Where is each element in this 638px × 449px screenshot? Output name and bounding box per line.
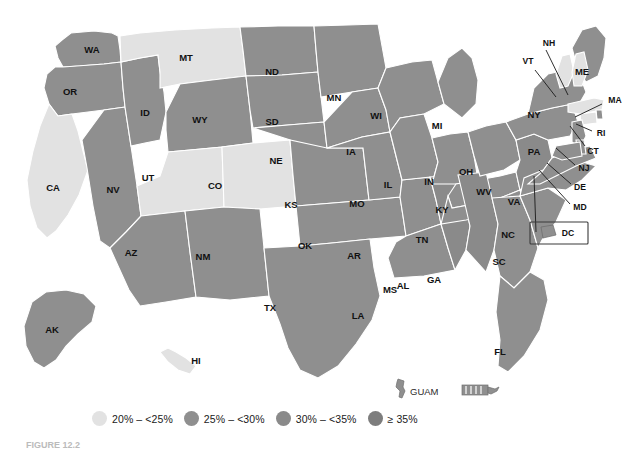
- state-label-ar: AR: [347, 250, 361, 261]
- state-label-nj: NJ: [579, 163, 590, 173]
- figure-number: FIGURE 12.2: [26, 440, 80, 449]
- state-label-ny: NY: [527, 109, 541, 120]
- state-label-sc: SC: [492, 256, 505, 267]
- state-label-ks: KS: [284, 199, 297, 210]
- state-label-wi: WI: [370, 110, 382, 121]
- legend-label-3: 30% – <35%: [296, 413, 357, 425]
- legend-item: ≥ 35%: [368, 411, 418, 426]
- state-label-md: MD: [573, 202, 586, 212]
- state-nd: [240, 26, 318, 76]
- state-label-al: AL: [397, 280, 410, 291]
- state-or: [44, 62, 125, 116]
- legend-label-4: ≥ 35%: [388, 413, 418, 425]
- state-label-co: CO: [208, 180, 222, 191]
- legend-swatch-3: [276, 411, 291, 426]
- state-label-la: LA: [352, 310, 365, 321]
- map-legend: 20% – <25%25% – <30%30% – <35%≥ 35%: [92, 411, 429, 426]
- state-label-nv: NV: [106, 184, 120, 195]
- state-label-ma: MA: [608, 95, 621, 105]
- state-label-az: AZ: [125, 247, 138, 258]
- state-label-ut: UT: [142, 172, 155, 183]
- state-label-wa: WA: [84, 44, 99, 55]
- legend-item: 30% – <35%: [276, 411, 357, 426]
- legend-label-1: 20% – <25%: [112, 413, 173, 425]
- state-label-ga: GA: [427, 274, 441, 285]
- state-label-ct: CT: [587, 146, 599, 156]
- legend-label-2: 25% – <30%: [204, 413, 265, 425]
- legend-swatch-1: [92, 411, 107, 426]
- state-label-nd: ND: [265, 66, 279, 77]
- state-label-mn: MN: [327, 92, 342, 103]
- state-label-mi: MI: [432, 120, 443, 131]
- state-label-il: IL: [384, 179, 393, 190]
- state-label-me: ME: [575, 66, 589, 77]
- state-ks: [290, 140, 369, 206]
- state-label-hi: HI: [191, 355, 201, 366]
- state-mi: [438, 48, 478, 118]
- legend-swatch-2: [184, 411, 199, 426]
- state-label-in: IN: [424, 176, 434, 187]
- state-label-ca: CA: [46, 182, 60, 193]
- state-label-pa: PA: [528, 146, 541, 157]
- state-tx: [264, 239, 380, 378]
- figure-map-container: WAORCANVIDMTWYUTCOAZNMNDSDNEKSOKTXMNIAMO…: [0, 0, 638, 449]
- state-label-nc: NC: [501, 229, 515, 240]
- legend-swatch-4: [368, 411, 383, 426]
- state-label-tn: TN: [416, 234, 429, 245]
- state-label-ms: MS: [383, 284, 397, 295]
- legend-item: 25% – <30%: [184, 411, 265, 426]
- state-label-fl: FL: [494, 346, 506, 357]
- us-choropleth-map: WAORCANVIDMTWYUTCOAZNMNDSDNEKSOKTXMNIAMO…: [0, 0, 638, 449]
- state-label-mt: MT: [179, 52, 193, 63]
- state-label-mo: MO: [349, 198, 364, 209]
- state-label-oh: OH: [459, 166, 473, 177]
- state-label-de: DE: [574, 182, 586, 192]
- state-label-wv: WV: [476, 186, 492, 197]
- state-label-nh: NH: [543, 38, 555, 48]
- state-label-ky: KY: [435, 204, 449, 215]
- state-ca: [27, 104, 88, 238]
- state-label-sd: SD: [265, 116, 278, 127]
- state-fl: [496, 272, 548, 372]
- legend-item: 20% – <25%: [92, 411, 173, 426]
- state-label-ne: NE: [269, 155, 282, 166]
- state-label-tx: TX: [264, 302, 277, 313]
- state-ak: [24, 290, 96, 368]
- figure-caption: FIGURE 12.2: [26, 440, 616, 449]
- state-label-ia: IA: [346, 146, 356, 157]
- state-label-va: VA: [508, 196, 521, 207]
- state-label-dc: DC: [562, 228, 574, 238]
- state-label-id: ID: [140, 107, 150, 118]
- state-mn: [314, 24, 386, 97]
- dc-inset-shape: [541, 225, 556, 238]
- state-label-vt: VT: [523, 56, 535, 66]
- state-label-nm: NM: [196, 251, 211, 262]
- state-label-ri: RI: [597, 128, 606, 138]
- state-wy: [166, 76, 253, 152]
- state-label-ak: AK: [45, 324, 59, 335]
- state-sd: [246, 72, 324, 128]
- state-label-ok: OK: [298, 240, 312, 251]
- state-label-wy: WY: [192, 114, 208, 125]
- state-label-or: OR: [63, 86, 77, 97]
